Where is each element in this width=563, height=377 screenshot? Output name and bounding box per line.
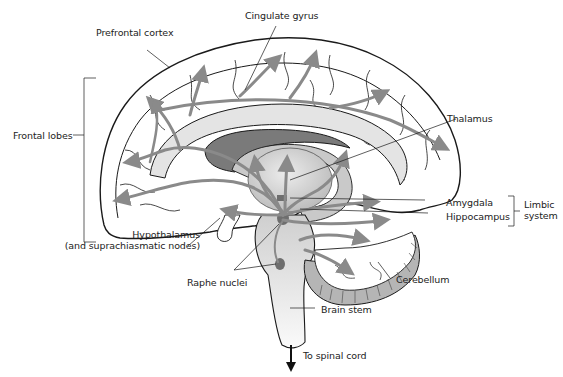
label-thalamus: Thalamus bbox=[447, 113, 493, 124]
label-limbic-system-line2: system bbox=[524, 210, 558, 221]
label-cingulate-gyrus: Cingulate gyrus bbox=[245, 10, 318, 21]
label-cerebellum: Cerebellum bbox=[396, 274, 449, 285]
label-hippocampus: Hippocampus bbox=[446, 211, 510, 222]
label-hypothalamus-detail: (and suprachiasmatic nodes) bbox=[40, 240, 200, 251]
label-to-spinal-cord: To spinal cord bbox=[303, 350, 367, 361]
brain-diagram: Cingulate gyrus Prefrontal cortex Fronta… bbox=[0, 0, 563, 377]
brainstem bbox=[255, 215, 314, 348]
brain-illustration bbox=[0, 0, 563, 377]
label-limbic-system-line1: Limbic bbox=[524, 199, 554, 210]
cerebellum bbox=[304, 232, 419, 305]
label-amygdala: Amygdala bbox=[446, 197, 493, 208]
label-hypothalamus: Hypothalamus bbox=[70, 229, 200, 240]
label-brain-stem: Brain stem bbox=[321, 304, 372, 315]
label-raphe-nuclei: Raphe nuclei bbox=[187, 277, 247, 288]
label-frontal-lobes: Frontal lobes bbox=[13, 130, 73, 141]
label-prefrontal-cortex: Prefrontal cortex bbox=[96, 27, 173, 38]
